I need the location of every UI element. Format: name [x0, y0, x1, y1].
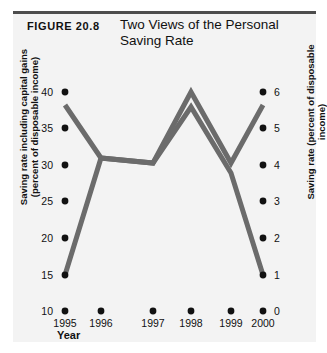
series-line-saving-rate: [65, 107, 263, 275]
right-tick-label-2: 2: [274, 232, 280, 244]
right-tick-label-1: 1: [274, 269, 280, 281]
right-tick-label-6: 6: [274, 86, 280, 98]
right-tick-label-3: 3: [274, 195, 280, 207]
x-tick-label-1998: 1998: [171, 317, 211, 329]
left-tick-label-10: 10: [31, 305, 53, 317]
right-axis-title: Saving rate (percent of disposable incom…: [305, 32, 327, 212]
x-tick-label-1996: 1996: [81, 317, 121, 329]
left-tick-label-15: 15: [31, 269, 53, 281]
left-axis-tick-dots: [62, 89, 69, 315]
series-line-capital-gains: [65, 92, 263, 163]
right-tick-label-0: 0: [274, 305, 280, 317]
left-axis-title: Saving rate including capital gains (per…: [18, 37, 40, 217]
chart-svg: [13, 11, 316, 339]
left-tick-label-20: 20: [31, 232, 53, 244]
x-tick-label-1995: 1995: [45, 317, 85, 329]
plot-area: 40 35 30 25 20 15 10 6 5 4 3 2 1 0 1995 …: [13, 11, 316, 339]
x-axis-tick-dots: [98, 308, 235, 315]
right-axis-tick-dots: [260, 89, 267, 315]
x-axis-title: Year: [57, 329, 80, 341]
figure-container: FIGURE 20.8 Two Views of the Personal Sa…: [0, 0, 327, 353]
right-tick-label-5: 5: [274, 122, 280, 134]
left-axis-title-line1: Saving rate including capital gains: [18, 37, 29, 217]
left-axis-title-line2: (percent of disposable income): [29, 37, 40, 217]
x-tick-label-1997: 1997: [133, 317, 173, 329]
x-tick-label-2000: 2000: [243, 317, 283, 329]
right-tick-label-4: 4: [274, 159, 280, 171]
